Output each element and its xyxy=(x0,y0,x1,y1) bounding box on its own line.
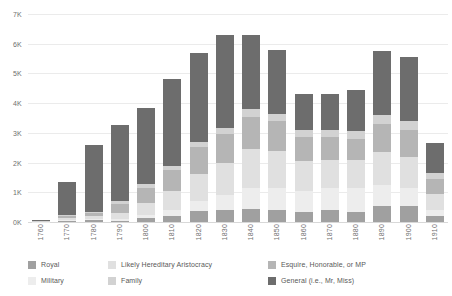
bar-segment[interactable] xyxy=(347,139,365,160)
legend-item[interactable]: Military xyxy=(28,274,64,287)
bar-segment[interactable] xyxy=(85,220,103,222)
bar-segment[interactable] xyxy=(295,94,313,130)
bar-group[interactable] xyxy=(137,14,155,222)
bar-segment[interactable] xyxy=(137,218,155,222)
bar-group[interactable] xyxy=(373,14,391,222)
bar-segment[interactable] xyxy=(400,130,418,157)
bar-segment[interactable] xyxy=(216,134,234,162)
bar-stack[interactable] xyxy=(85,145,103,222)
bar-segment[interactable] xyxy=(268,114,286,121)
bar-segment[interactable] xyxy=(85,145,103,212)
bar-segment[interactable] xyxy=(190,53,208,142)
bar-segment[interactable] xyxy=(321,188,339,210)
bar-segment[interactable] xyxy=(373,115,391,124)
bar-segment[interactable] xyxy=(216,195,234,210)
bar-segment[interactable] xyxy=(190,147,208,174)
bar-segment[interactable] xyxy=(58,182,76,215)
bar-group[interactable] xyxy=(268,14,286,222)
bar-segment[interactable] xyxy=(242,149,260,188)
bar-segment[interactable] xyxy=(400,57,418,121)
bar-stack[interactable] xyxy=(242,35,260,222)
bar-segment[interactable] xyxy=(111,221,129,222)
bar-stack[interactable] xyxy=(268,50,286,222)
bar-segment[interactable] xyxy=(295,191,313,212)
bar-segment[interactable] xyxy=(268,151,286,188)
bar-segment[interactable] xyxy=(216,35,234,129)
bar-segment[interactable] xyxy=(347,90,365,130)
bar-segment[interactable] xyxy=(295,161,313,191)
bar-segment[interactable] xyxy=(242,117,260,150)
bar-segment[interactable] xyxy=(426,143,444,173)
legend-item[interactable]: General (i.e., Mr, Miss) xyxy=(268,274,366,287)
bar-segment[interactable] xyxy=(268,188,286,210)
bar-segment[interactable] xyxy=(268,50,286,114)
legend-item[interactable]: Royal xyxy=(28,258,64,271)
bar-group[interactable] xyxy=(295,14,313,222)
bar-segment[interactable] xyxy=(268,210,286,222)
bar-segment[interactable] xyxy=(426,179,444,194)
bar-segment[interactable] xyxy=(111,125,129,201)
bar-segment[interactable] xyxy=(373,152,391,185)
bar-segment[interactable] xyxy=(190,201,208,211)
bar-group[interactable] xyxy=(426,14,444,222)
bar-segment[interactable] xyxy=(137,203,155,215)
bar-segment[interactable] xyxy=(58,221,76,222)
bar-segment[interactable] xyxy=(400,188,418,206)
bar-segment[interactable] xyxy=(216,163,234,196)
bar-stack[interactable] xyxy=(216,35,234,222)
bar-stack[interactable] xyxy=(32,220,50,222)
bar-segment[interactable] xyxy=(163,191,181,210)
bar-group[interactable] xyxy=(58,14,76,222)
bar-segment[interactable] xyxy=(242,35,260,109)
bar-segment[interactable] xyxy=(373,51,391,115)
bar-stack[interactable] xyxy=(400,57,418,222)
bar-segment[interactable] xyxy=(373,124,391,152)
bar-segment[interactable] xyxy=(242,209,260,222)
bar-stack[interactable] xyxy=(295,94,313,222)
bar-segment[interactable] xyxy=(347,160,365,188)
legend-item[interactable]: Likely Hereditary Aristocracy xyxy=(108,258,212,271)
bar-stack[interactable] xyxy=(190,53,208,222)
bar-segment[interactable] xyxy=(295,130,313,137)
bar-segment[interactable] xyxy=(400,206,418,222)
bar-stack[interactable] xyxy=(426,143,444,222)
bar-stack[interactable] xyxy=(347,90,365,222)
bar-segment[interactable] xyxy=(137,188,155,203)
bar-segment[interactable] xyxy=(268,121,286,151)
bar-group[interactable] xyxy=(85,14,103,222)
legend-item[interactable]: Family xyxy=(108,274,212,287)
bar-segment[interactable] xyxy=(321,130,339,138)
bar-segment[interactable] xyxy=(137,108,155,185)
bar-stack[interactable] xyxy=(58,182,76,222)
bar-group[interactable] xyxy=(32,14,50,222)
bar-segment[interactable] xyxy=(400,157,418,188)
bar-segment[interactable] xyxy=(295,212,313,222)
bar-group[interactable] xyxy=(347,14,365,222)
bar-stack[interactable] xyxy=(321,94,339,222)
bar-segment[interactable] xyxy=(295,137,313,161)
bar-segment[interactable] xyxy=(216,210,234,222)
bar-stack[interactable] xyxy=(163,79,181,222)
bar-stack[interactable] xyxy=(137,108,155,222)
bar-segment[interactable] xyxy=(163,79,181,165)
bar-segment[interactable] xyxy=(347,188,365,212)
bar-segment[interactable] xyxy=(321,210,339,222)
bar-group[interactable] xyxy=(190,14,208,222)
bar-segment[interactable] xyxy=(347,131,365,139)
bar-group[interactable] xyxy=(216,14,234,222)
bar-segment[interactable] xyxy=(426,194,444,210)
bar-segment[interactable] xyxy=(190,174,208,201)
bar-segment[interactable] xyxy=(400,121,418,130)
bar-group[interactable] xyxy=(111,14,129,222)
bar-group[interactable] xyxy=(163,14,181,222)
bar-segment[interactable] xyxy=(321,94,339,130)
bar-stack[interactable] xyxy=(111,125,129,222)
bar-segment[interactable] xyxy=(111,204,129,213)
bar-segment[interactable] xyxy=(242,188,260,209)
bar-group[interactable] xyxy=(400,14,418,222)
bar-stack[interactable] xyxy=(373,51,391,222)
bar-segment[interactable] xyxy=(373,206,391,222)
bar-segment[interactable] xyxy=(426,216,444,222)
bar-segment[interactable] xyxy=(321,160,339,188)
bar-segment[interactable] xyxy=(373,185,391,206)
